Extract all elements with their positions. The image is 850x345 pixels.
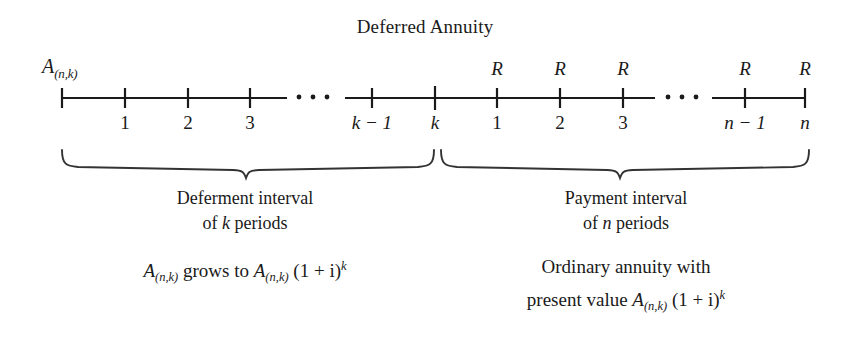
payment-caption: Payment interval of n periods: [440, 186, 812, 236]
deferment-caption-line2: of k periods: [55, 211, 435, 236]
payment-marker-3: R: [608, 58, 638, 80]
origin-value-label: A(n,k): [42, 55, 77, 82]
payment-tick-label-1: 1: [477, 112, 517, 134]
deferment-tick-label-k: k: [415, 112, 455, 134]
origin-value-subscript: (n,k): [54, 66, 77, 81]
deferred-annuity-figure: Deferred Annuity: [0, 0, 850, 345]
payment-marker-2: R: [545, 58, 575, 80]
payment-tick-label-n: n: [785, 112, 825, 134]
payment-formula-line1: Ordinary annuity with: [440, 252, 812, 281]
deferment-tick-label-1: 1: [105, 112, 145, 134]
payment-marker-n: R: [790, 58, 820, 80]
payment-formula: Ordinary annuity with present value A(n,…: [440, 252, 812, 321]
deferment-formula-factor: (1 + i): [293, 260, 341, 281]
deferment-caption-line1: Deferment interval: [55, 186, 435, 211]
payment-tick-label-3: 3: [603, 112, 643, 134]
deferment-tick-label-k-minus-1: k − 1: [337, 112, 407, 134]
deferment-formula-exponent: k: [341, 259, 347, 273]
deferment-tick-label-2: 2: [168, 112, 208, 134]
ellipsis-payment: [666, 95, 699, 100]
payment-formula-line2: present value A(n,k) (1 + i)k: [440, 281, 812, 321]
brace-payment: [441, 150, 809, 178]
payment-tick-label-2: 2: [540, 112, 580, 134]
payment-caption-line1: Payment interval: [440, 186, 812, 211]
brace-deferment: [62, 150, 434, 178]
payment-formula-factor: (1 + i): [672, 289, 720, 310]
payment-marker-1: R: [482, 58, 512, 80]
origin-value-base: A: [42, 55, 54, 77]
payment-caption-line2: of n periods: [440, 211, 812, 236]
payment-marker-n-minus-1: R: [730, 58, 760, 80]
payment-formula-exponent: k: [720, 288, 726, 302]
deferment-caption: Deferment interval of k periods: [55, 186, 435, 236]
payment-tick-label-n-minus-1: n − 1: [710, 112, 780, 134]
deferment-formula: A(n,k) grows to A(n,k) (1 + i)k: [55, 252, 435, 292]
deferment-tick-label-3: 3: [230, 112, 270, 134]
ellipsis-deferment: [297, 95, 330, 100]
